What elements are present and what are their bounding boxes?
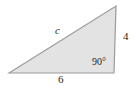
horizontal-leg-label: 6 — [58, 74, 64, 85]
vertical-leg-label: 4 — [123, 31, 129, 42]
hypotenuse-label: c — [55, 25, 60, 36]
triangle-graphic — [0, 0, 137, 90]
right-triangle-figure: c 4 6 90° — [0, 0, 137, 90]
right-angle-label: 90° — [92, 57, 106, 67]
